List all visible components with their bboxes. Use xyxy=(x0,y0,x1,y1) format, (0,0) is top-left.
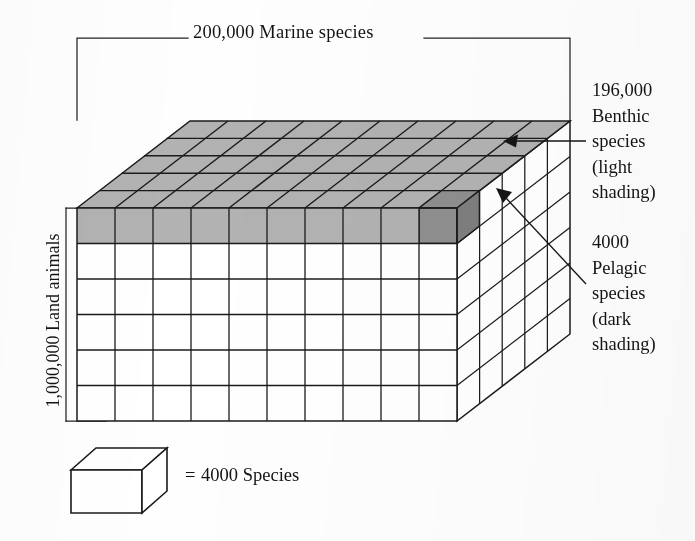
pelagic-line-2: Pelagic xyxy=(592,256,656,282)
left-axis-label: 1,000,000 Land animals xyxy=(43,196,64,446)
top-bracket xyxy=(77,38,570,120)
figure-canvas: 200,000 Marine species 1,000,000 Land an… xyxy=(0,0,695,541)
top-axis-label: 200,000 Marine species xyxy=(193,22,374,43)
benthic-line-5: shading) xyxy=(592,180,656,206)
benthic-line-1: 196,000 xyxy=(592,78,656,104)
legend-caption: = 4000 Species xyxy=(185,465,299,486)
species-cube-diagram xyxy=(0,0,695,541)
benthic-callout: 196,000 Benthic species (light shading) xyxy=(592,78,656,206)
legend-value: 4000 Species xyxy=(201,465,299,485)
block-front-face xyxy=(77,208,457,421)
pelagic-callout: 4000 Pelagic species (dark shading) xyxy=(592,230,656,358)
legend-cube-icon xyxy=(71,448,167,513)
pelagic-line-4: (dark xyxy=(592,307,656,333)
benthic-line-4: (light xyxy=(592,155,656,181)
pelagic-line-1: 4000 xyxy=(592,230,656,256)
benthic-line-3: species xyxy=(592,129,656,155)
pelagic-line-5: shading) xyxy=(592,332,656,358)
benthic-line-2: Benthic xyxy=(592,104,656,130)
pelagic-line-3: species xyxy=(592,281,656,307)
legend-equals-sign: = xyxy=(185,465,196,485)
